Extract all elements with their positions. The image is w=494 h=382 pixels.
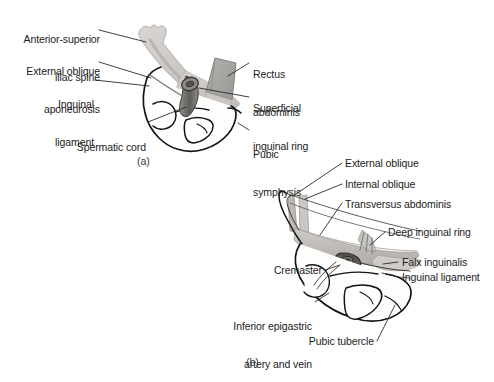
label-line-1: Inguinal [8,98,94,111]
label-line-1: Superficial [253,102,349,115]
anatomy-figure: Anterior-superior iliac spine External o… [0,0,494,382]
label-line-2: artery and vein [232,358,312,371]
label-transversus-abdominis: Transversus abdominis [345,198,451,211]
leader-inguinal-ligament [95,80,149,86]
label-inguinal-ligament-b: Inguinal ligament [402,271,480,284]
label-pubic-tubercle: Pubic tubercle [290,335,374,348]
leader-pubic-symphysis [238,123,249,130]
leader-external-oblique-aponeurosis [99,62,151,78]
label-line-2: symphysis [253,186,349,199]
iliac-crest-a [147,67,161,78]
label-deep-inguinal-ring: Deep inguinal ring [388,226,471,239]
panel-label-a: (a) [137,155,150,167]
label-line-1: Spermatic cord [58,141,146,154]
label-pubic-symphysis: Pubic symphysis [253,123,349,223]
label-line-1: Inferior epigastric [232,320,312,333]
label-internal-oblique: Internal oblique [345,178,415,191]
label-external-oblique: External oblique [345,157,419,170]
panel-label-b: (b) [246,356,259,368]
label-line-1: Pubic [253,148,349,161]
label-falx-inguinalis: Falx inguinalis [402,256,467,269]
label-cremaster: Cremaster [246,264,322,277]
label-spermatic-cord: Spermatic cord [58,116,146,179]
